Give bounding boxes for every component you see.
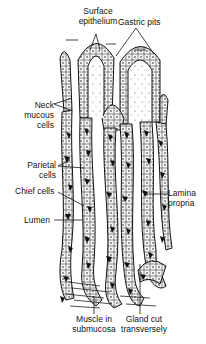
- gastric-gland-diagram: Surface epithelium Gastric pits Neck muc…: [0, 0, 206, 344]
- label-lamina-propria: Lamina propria: [168, 188, 196, 208]
- label-muscle-in-submucosa: Muscle in submucosa: [66, 314, 122, 334]
- label-lumen: Lumen: [24, 215, 50, 225]
- label-gland-cut-transversely: Gland cut transversely: [118, 314, 170, 334]
- label-neck-mucous-cells: Neck mucous cells: [10, 100, 54, 130]
- gastric-glands-drawing: [60, 110, 172, 308]
- label-gastric-pits: Gastric pits: [118, 17, 161, 27]
- surface-epithelium-drawing: [60, 43, 168, 130]
- label-chief-cells: Chief cells: [15, 186, 54, 196]
- label-parietal-cells: Parietal cells: [8, 160, 56, 180]
